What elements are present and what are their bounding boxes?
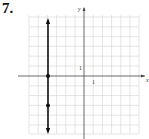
x-axis-arrow-icon: [141, 75, 145, 78]
line-arrow-down-icon: [46, 128, 50, 134]
y-tick-label: 1: [79, 65, 82, 71]
axes: [18, 8, 145, 139]
x-axis-label: x: [145, 77, 149, 83]
y-axis-label: y: [77, 6, 81, 12]
point: [46, 74, 50, 78]
x-tick-label: 1: [92, 79, 95, 85]
point: [46, 104, 50, 108]
y-axis-arrow-icon: [83, 7, 86, 11]
coordinate-graph: x y 1 1: [0, 0, 149, 139]
line-arrow-up-icon: [46, 18, 50, 24]
